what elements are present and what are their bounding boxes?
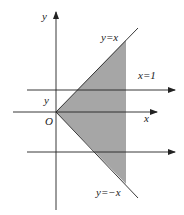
line-y-equals-neg-x-label: y=−x — [95, 186, 121, 198]
coordinate-diagram: y x O y y=x x=1 y=−x — [0, 0, 184, 215]
vertical-line-label: x=1 — [137, 69, 156, 81]
line-y-equals-x-label: y=x — [100, 31, 118, 43]
x-axis-label: x — [143, 112, 149, 124]
y-axis-label: y — [41, 10, 47, 22]
origin-label: O — [45, 115, 53, 127]
diagram-canvas: y x O y y=x x=1 y=−x — [0, 0, 184, 215]
inner-y-label: y — [43, 94, 49, 106]
